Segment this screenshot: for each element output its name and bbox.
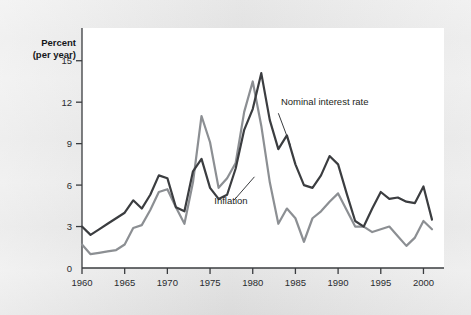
y-tick-label: 3 [67, 221, 72, 232]
x-tick-label: 1970 [157, 277, 178, 288]
annotation-label-nominal-interest-rate: Nominal interest rate [281, 96, 369, 107]
interest-rate-inflation-line-chart: Percent(per year)03691215196019651970197… [0, 0, 471, 315]
y-tick-label: 6 [67, 180, 72, 191]
x-tick-label: 1965 [114, 277, 135, 288]
plot-area-background [82, 28, 444, 268]
x-tick-label: 1995 [370, 277, 391, 288]
annotation-label-inflation: Inflation [214, 195, 247, 206]
x-tick-label: 1985 [285, 277, 306, 288]
x-tick-label: 1975 [199, 277, 220, 288]
chart-figure: Percent(per year)03691215196019651970197… [0, 0, 471, 315]
x-tick-label: 1980 [242, 277, 263, 288]
x-tick-label: 1990 [328, 277, 349, 288]
y-tick-label: 0 [67, 263, 72, 274]
x-tick-label: 2000 [413, 277, 434, 288]
x-tick-label: 1960 [71, 277, 92, 288]
y-tick-label: 9 [67, 138, 72, 149]
y-tick-label: 15 [61, 55, 72, 66]
y-tick-label: 12 [61, 97, 72, 108]
y-axis-title-line1: Percent [41, 37, 77, 48]
